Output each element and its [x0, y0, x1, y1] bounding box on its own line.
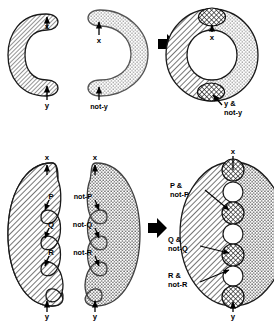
- half-ellipse-stippled: [85, 163, 140, 306]
- label-y-and-line1: y &: [224, 99, 236, 108]
- right-arrow-glyph-2: [148, 218, 167, 238]
- diagram-svg: x y x not-y x y &: [0, 0, 274, 321]
- label-x-panel5: x: [93, 153, 98, 162]
- label-x-panel2: x: [97, 36, 102, 45]
- gap-circle-1: [223, 182, 243, 202]
- overlap-circle-q: [222, 244, 244, 266]
- gap-circle-2: [223, 224, 243, 244]
- gap-circle-3: [223, 266, 243, 286]
- label-not-p-line2: not-P: [170, 190, 189, 199]
- label-not-q-line2: not-Q: [168, 244, 188, 253]
- label-not-q: not-Q: [73, 220, 93, 229]
- label-r-and-line1: R &: [168, 271, 181, 280]
- label-y-panel6: y: [231, 312, 236, 321]
- label-not-y-line2: not-y: [224, 108, 243, 117]
- panel-notpqr-half-ellipse: x not-P not-Q not-R y: [73, 153, 140, 321]
- label-y-panel1: y: [45, 101, 50, 110]
- label-q: Q: [48, 220, 54, 229]
- crescent-stippled-shape: [88, 10, 148, 96]
- label-y-panel5: y: [93, 312, 98, 321]
- label-not-p: not-P: [74, 192, 93, 201]
- label-not-r: not-R: [73, 248, 93, 257]
- label-y-panel4: y: [45, 312, 50, 321]
- half-ellipse-hatched-edge: [8, 163, 63, 306]
- panel-pqr-half-ellipse: x P Q R y: [8, 153, 63, 321]
- panel-x-y-crescent: x y: [8, 14, 58, 110]
- overlap-region-y-noty: [198, 83, 225, 101]
- label-p-and-line1: P &: [170, 181, 183, 190]
- label-x-panel6: x: [231, 147, 236, 156]
- panel-ellipse-combined: x P & not-P Q & not-Q R & not-R y: [168, 147, 274, 321]
- label-p: P: [48, 192, 53, 201]
- overlap-circle-p: [222, 202, 244, 224]
- panel-notx-noty-crescent: x not-y: [88, 10, 148, 111]
- overlap-region-x: [199, 8, 226, 26]
- label-r: R: [48, 248, 54, 257]
- label-not-r-line2: not-R: [168, 280, 188, 289]
- figure-root: x y x not-y x y &: [0, 0, 274, 321]
- label-x-panel4: x: [45, 153, 50, 162]
- label-not-y-panel2: not-y: [90, 102, 108, 111]
- label-x-panel1: x: [45, 22, 50, 31]
- crescent-hatched-shape: [8, 14, 58, 96]
- panel-ring-combined: x y & not-y: [166, 8, 258, 117]
- right-arrow-icon-row2: [148, 218, 167, 238]
- label-x-panel3: x: [210, 33, 215, 42]
- label-q-and-line1: Q &: [168, 235, 182, 244]
